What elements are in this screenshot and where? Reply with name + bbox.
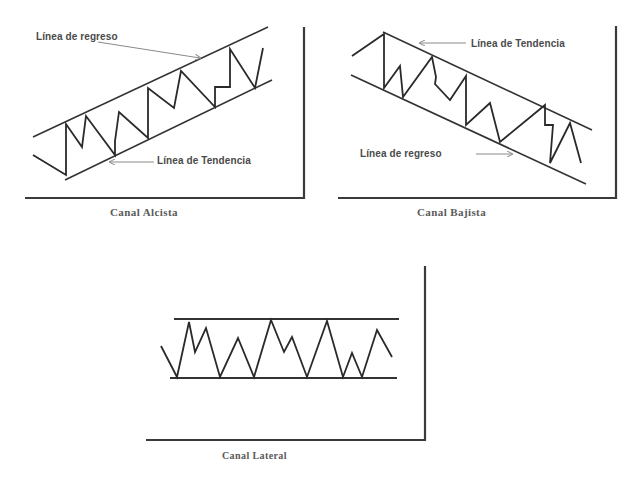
bajista-regression-label: Línea de regreso xyxy=(360,148,442,159)
panel-canal-bajista xyxy=(338,26,616,198)
channels-diagram xyxy=(0,0,641,484)
axis-frame xyxy=(338,26,616,198)
alcista-regression-label: Línea de regreso xyxy=(36,31,118,42)
regression-line xyxy=(351,75,586,184)
regression-line xyxy=(33,27,268,137)
price-zigzag xyxy=(161,320,392,377)
panel-canal-lateral xyxy=(146,266,425,440)
panel-canal-alcista xyxy=(25,27,304,198)
alcista-trend-label: Línea de Tendencia xyxy=(157,155,251,166)
price-zigzag xyxy=(352,34,581,163)
bajista-caption: Canal Bajista xyxy=(417,206,486,218)
axis-frame xyxy=(146,266,425,440)
alcista-caption: Canal Alcista xyxy=(110,206,178,218)
regression-arrow-icon xyxy=(98,42,200,58)
lateral-caption: Canal Lateral xyxy=(222,450,287,461)
bajista-trend-label: Línea de Tendencia xyxy=(471,38,565,49)
